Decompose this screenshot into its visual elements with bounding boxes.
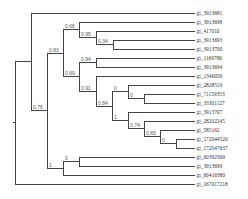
leaf-label: gi_3913699 — [197, 163, 223, 169]
support-value: 0 — [65, 155, 68, 161]
support-value: 0.94 — [81, 56, 91, 62]
support-value: 0 — [162, 137, 165, 143]
leaf-label: gi_3913694 — [197, 64, 223, 70]
leaf-label: gi_1346056 — [197, 73, 223, 79]
leaf-label: gi_2828519 — [197, 82, 223, 88]
support-value: 1 — [49, 162, 52, 168]
leaf-label: gi_28202245 — [197, 118, 226, 124]
support-value: 0.74 — [130, 122, 140, 128]
leaf-label: gi_60416380 — [197, 172, 226, 178]
leaf-label: gi_417010 — [197, 28, 220, 34]
support-value: 0.66 — [65, 23, 75, 29]
leaf-label: gi_71159353 — [197, 91, 226, 97]
leaf-label: gi_60392309 — [197, 154, 226, 160]
support-value: 0.91 — [81, 85, 91, 91]
leaf-label: gi_3913698 — [197, 19, 223, 25]
leaf-label: gi_3913700 — [197, 46, 223, 52]
support-value: 0.76 — [33, 104, 43, 110]
leaf-label: gi_167017218 — [197, 181, 228, 187]
support-value: 1 — [114, 114, 117, 120]
phylogenetic-tree: 0.340.95000.890.74010.840.940.910.660.69… — [0, 0, 248, 199]
leaf-label: gi_172044520 — [197, 136, 228, 142]
support-value: 0.89 — [146, 130, 156, 136]
support-value: 0 — [130, 92, 133, 98]
support-value: 0.69 — [65, 70, 75, 76]
support-value: 0.84 — [98, 100, 108, 106]
support-value: 0.34 — [98, 38, 108, 44]
leaf-label: gi_3913681 — [197, 10, 223, 16]
leaf-label: gi_1169780 — [197, 55, 223, 61]
leaf-label: gi_3913707 — [197, 109, 223, 115]
support-value: 0.83 — [49, 47, 59, 53]
leaf-label: gi_172047637 — [197, 145, 228, 151]
support-values: 0.340.95000.890.74010.840.940.910.660.69… — [33, 23, 165, 167]
leaf-labels: gi_3913681gi_3913698gi_417010gi_3913693g… — [197, 10, 228, 187]
leaf-label: gi_33301127 — [197, 100, 226, 106]
leaf-label: gi_3913693 — [197, 37, 223, 43]
support-value: 0.95 — [81, 31, 91, 37]
support-value: 0 — [114, 85, 117, 91]
leaf-label: gi_585162 — [197, 127, 220, 133]
